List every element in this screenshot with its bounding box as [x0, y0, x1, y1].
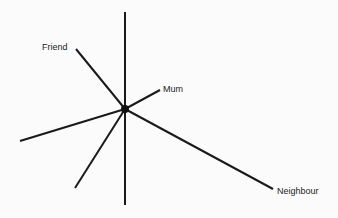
spoke-mum	[125, 90, 160, 109]
network-diagram: Friend Mum Neighbour	[0, 0, 338, 218]
spoke-lower-left	[75, 109, 125, 188]
center-node	[121, 105, 129, 113]
label-neighbour: Neighbour	[277, 187, 319, 196]
spoke-left	[20, 109, 125, 141]
label-mum: Mum	[163, 85, 183, 94]
label-friend: Friend	[42, 43, 68, 52]
spoke-friend	[76, 49, 125, 109]
spoke-neighbour	[125, 109, 273, 189]
